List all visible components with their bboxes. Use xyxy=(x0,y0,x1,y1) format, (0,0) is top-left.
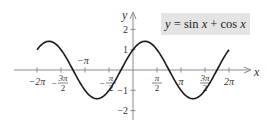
y-axis-label: y xyxy=(121,8,128,22)
svg-text:2: 2 xyxy=(61,83,66,93)
x-axis-label: x xyxy=(253,65,260,79)
svg-text:π: π xyxy=(155,73,160,83)
legend-x2: x xyxy=(240,17,246,32)
legend-plus: + cos xyxy=(207,17,240,32)
svg-text:3π: 3π xyxy=(199,73,210,83)
svg-text:−2π: −2π xyxy=(29,76,47,87)
svg-text:π: π xyxy=(109,73,114,83)
y-tick-label: 2 xyxy=(123,24,128,35)
svg-text:2: 2 xyxy=(155,83,160,93)
y-tick-label: 1 xyxy=(123,44,128,55)
x-tick-label: 2π xyxy=(224,76,235,87)
y-tick-label: −1 xyxy=(117,85,128,96)
svg-text:π: π xyxy=(178,76,184,87)
x-tick-label: π xyxy=(178,76,184,87)
svg-text:−π: −π xyxy=(77,55,90,66)
x-tick-label: π2 xyxy=(152,73,162,93)
x-tick-label: −π xyxy=(77,55,90,66)
legend-equation-box: y = sin x + cos x xyxy=(161,13,250,35)
svg-text:−: − xyxy=(51,78,56,88)
svg-text:−: − xyxy=(99,78,104,88)
svg-text:3π: 3π xyxy=(57,73,68,83)
svg-text:2π: 2π xyxy=(224,76,235,87)
legend-eq: = sin xyxy=(171,17,202,32)
y-tick-label: −2 xyxy=(117,105,128,116)
x-tick-label: 3π2− xyxy=(51,73,68,93)
x-tick-label: −2π xyxy=(29,76,47,87)
